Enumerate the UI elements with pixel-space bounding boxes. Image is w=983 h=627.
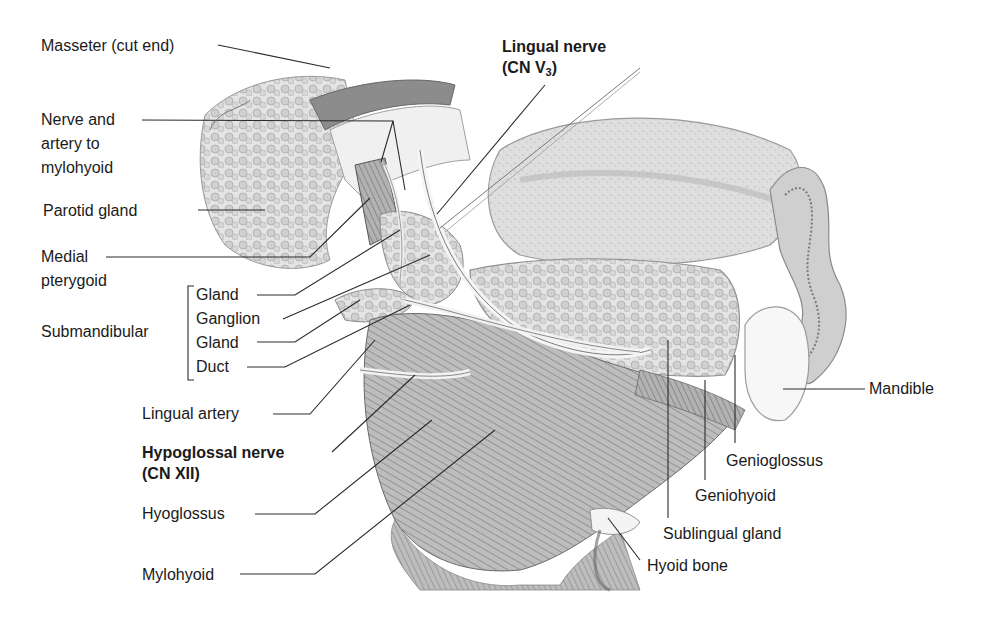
label-submandibular: Submandibular	[41, 322, 149, 341]
label-submandibular-gland-1: Gland	[196, 285, 239, 304]
label-lingual-nerve-line2: (CN V3)	[502, 58, 557, 77]
lingual-nerve-cn-prefix: (CN V	[502, 59, 546, 76]
label-submandibular-gland-2: Gland	[196, 333, 239, 352]
label-nerve-artery-mylohyoid-line3: mylohyoid	[41, 158, 113, 177]
label-genioglossus: Genioglossus	[726, 451, 823, 470]
label-nerve-artery-mylohyoid-line2: artery to	[41, 134, 100, 153]
floor-of-mouth-illustration	[0, 0, 983, 627]
label-mylohyoid: Mylohyoid	[142, 565, 214, 584]
label-medial-pterygoid-line1: Medial	[41, 247, 88, 266]
label-hyoid-bone: Hyoid bone	[647, 556, 728, 575]
label-lingual-nerve-line1: Lingual nerve	[502, 37, 606, 56]
label-hyoglossus: Hyoglossus	[142, 504, 225, 523]
label-submandibular-ganglion: Ganglion	[196, 309, 260, 328]
label-submandibular-duct: Duct	[196, 357, 229, 376]
label-geniohyoid: Geniohyoid	[695, 486, 776, 505]
label-medial-pterygoid-line2: pterygoid	[41, 271, 107, 290]
anatomy-figure: Masseter (cut end) Nerve and artery to m…	[0, 0, 983, 627]
label-hypoglossal-nerve-line1: Hypoglossal nerve	[142, 443, 284, 462]
submandibular-bracket	[188, 286, 194, 380]
mandible-symphysis-shape	[745, 307, 809, 421]
label-parotid-gland: Parotid gland	[43, 201, 137, 220]
label-mandible: Mandible	[869, 379, 934, 398]
hyoid-bone-shape	[590, 508, 640, 534]
label-hypoglossal-nerve-line2: (CN XII)	[142, 464, 200, 483]
label-lingual-artery: Lingual artery	[142, 404, 239, 423]
label-sublingual-gland: Sublingual gland	[663, 524, 781, 543]
label-masseter: Masseter (cut end)	[41, 36, 174, 55]
label-nerve-artery-mylohyoid-line1: Nerve and	[41, 110, 115, 129]
lingual-nerve-cn-suffix: )	[552, 59, 557, 76]
